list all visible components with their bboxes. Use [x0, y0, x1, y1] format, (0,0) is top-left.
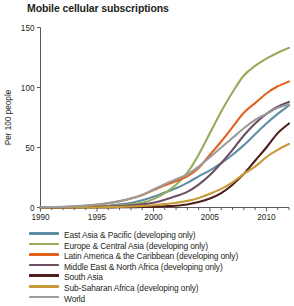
series-line [41, 82, 290, 208]
x-tick-label: 1995 [88, 213, 107, 222]
legend-color-swatch [29, 285, 59, 288]
x-tick-label: 2005 [201, 213, 220, 222]
legend-color-swatch [29, 274, 59, 277]
legend-item[interactable]: Sub-Saharan Africa (developing only) [0, 281, 294, 292]
legend-item[interactable]: World [0, 292, 294, 303]
y-tick-label: 100 [21, 84, 35, 93]
legend-color-swatch [29, 264, 59, 267]
series-line [41, 144, 290, 208]
series-line [41, 124, 290, 208]
y-axis-label: Per 100 people [4, 89, 13, 145]
x-tick-label: 2010 [257, 213, 276, 222]
legend-item[interactable]: Europe & Central Asia (developing only) [0, 239, 294, 250]
legend-item[interactable]: Middle East & North Africa (developing o… [0, 260, 294, 271]
legend-item[interactable]: South Asia [0, 270, 294, 281]
legend-color-swatch [29, 296, 59, 299]
y-axis-ticks: 050100150 [21, 24, 41, 213]
line-chart-svg: 050100150Per 100 people19901995200020052… [0, 14, 294, 226]
x-tick-label: 1990 [31, 213, 50, 222]
y-tick-label: 0 [30, 204, 35, 213]
chart-title: Mobile cellular subscriptions [27, 2, 169, 14]
legend-item-label: World [64, 294, 85, 304]
chart-legend: East Asia & Pacific (developing only)Eur… [0, 228, 294, 306]
y-tick-label: 150 [21, 24, 35, 33]
y-tick-label: 50 [25, 144, 35, 153]
series-group [41, 48, 290, 208]
x-axis-ticks: 19901995200020052010 [31, 208, 289, 223]
axes [41, 28, 290, 208]
legend-color-swatch [29, 243, 59, 246]
legend-color-swatch [29, 253, 59, 256]
legend-item[interactable]: East Asia & Pacific (developing only) [0, 228, 294, 239]
x-tick-label: 2000 [144, 213, 163, 222]
legend-color-swatch [29, 232, 59, 235]
legend-item[interactable]: Latin America & the Caribbean (developin… [0, 249, 294, 260]
chart-figure: Mobile cellular subscriptions 050100150P… [0, 0, 294, 306]
plot-area: 050100150Per 100 people19901995200020052… [0, 14, 294, 226]
